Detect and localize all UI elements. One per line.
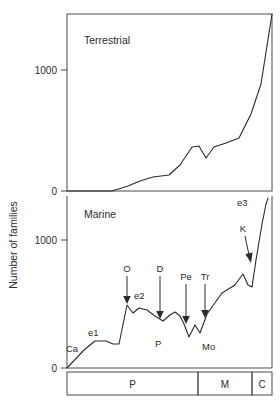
inline-label-P-fauna: P [155,338,161,349]
inline-label-e1: e1 [88,327,99,338]
panel-terrestrial: 1000 0 Terrestrial [35,14,272,197]
annotation-arrow-D: D [156,263,164,319]
inline-label-Mo: Mo [202,341,215,352]
era-label-paleozoic: P [129,379,136,390]
event-label-Tr: Tr [201,271,210,282]
event-label-K: K [240,223,247,234]
event-label-D: D [157,263,164,274]
chart-svg: Number of families 1000 0 Terrestrial [0,0,280,405]
terrestrial-tick-label-0: 0 [51,186,57,197]
marine-panel-label: Marine [84,208,116,220]
era-label-mesozoic: M [221,379,229,390]
annotation-arrow-Tr: Tr [201,271,210,318]
y-axis-title: Number of families [7,201,19,289]
marine-tick-label-1000: 1000 [35,235,58,246]
figure-container: Number of families 1000 0 Terrestrial [0,0,280,405]
inline-label-e3: e3 [237,197,248,208]
era-label-cenozoic: C [258,379,265,390]
panel-marine: 1000 0 Marine O D Pe [35,196,272,374]
annotation-arrow-K: K [240,223,253,263]
arrow-head-O [123,296,131,304]
arrow-head-K [245,253,252,263]
inline-label-e2: e2 [134,290,145,301]
event-label-Pe: Pe [180,271,192,282]
terrestrial-tick-label-1000: 1000 [35,65,58,76]
annotation-arrow-Pe: Pe [180,271,192,324]
terrestrial-panel-label: Terrestrial [84,34,130,46]
inline-label-Ca: Ca [66,343,79,354]
annotation-arrow-O: O [123,263,131,304]
event-label-O: O [123,263,130,274]
era-bar: P M C [67,372,272,395]
marine-tick-label-0: 0 [51,363,57,374]
marine-curve [67,198,268,368]
arrow-shaft-K [245,236,249,255]
